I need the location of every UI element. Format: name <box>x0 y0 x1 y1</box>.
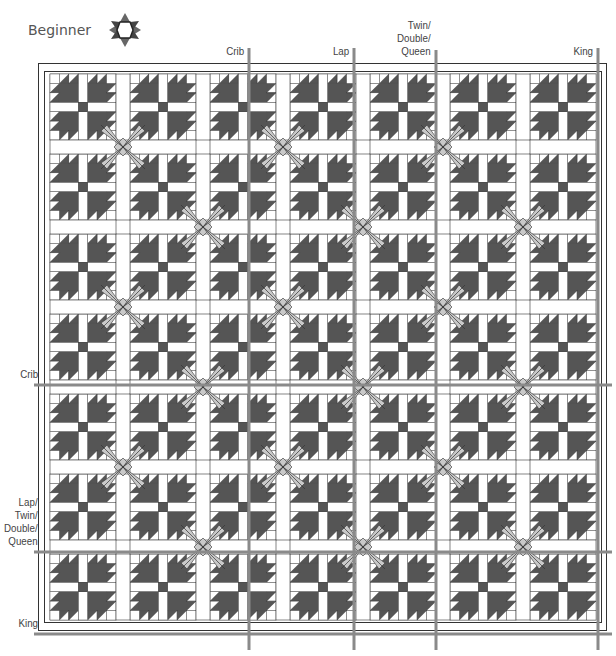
quilt-diagram <box>0 0 616 656</box>
size-label-top-1: Lap <box>333 45 349 58</box>
size-label-left-0: Crib <box>20 368 38 381</box>
size-label-left-2: King <box>18 617 38 630</box>
size-label-top-3: King <box>573 45 593 58</box>
size-label-top-0: Crib <box>226 45 244 58</box>
size-label-top-2: Twin/Double/Queen <box>397 19 431 58</box>
size-label-left-1: Lap/Twin/Double/Queen <box>4 496 38 548</box>
